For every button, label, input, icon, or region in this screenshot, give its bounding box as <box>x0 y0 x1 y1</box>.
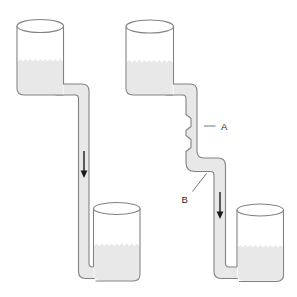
label-b-leader-line <box>193 174 207 192</box>
flow-apparatus-figure: A B <box>0 0 297 297</box>
right-apparatus: A B <box>126 20 284 282</box>
right-upper-reservoir-opening <box>126 20 174 33</box>
left-lower-liquid <box>94 244 139 281</box>
right-upper-liquid <box>127 60 173 95</box>
left-apparatus <box>17 20 140 282</box>
left-upper-reservoir-opening <box>17 20 64 33</box>
right-upper-reservoir <box>126 20 174 95</box>
left-upper-reservoir <box>17 20 64 96</box>
left-lower-cylinder-opening <box>94 203 141 215</box>
apparatus-diagram: A B <box>0 0 297 297</box>
right-lower-liquid <box>238 245 283 281</box>
left-lower-cylinder <box>94 203 141 282</box>
label-b: B <box>182 194 188 205</box>
right-tube <box>166 84 243 279</box>
left-tube <box>56 84 99 279</box>
annotation-a: A <box>204 121 228 132</box>
label-a: A <box>221 121 228 132</box>
right-lower-cylinder-opening <box>237 204 284 216</box>
left-upper-liquid <box>18 59 63 95</box>
right-lower-cylinder <box>237 204 284 282</box>
annotation-b: B <box>182 174 207 206</box>
